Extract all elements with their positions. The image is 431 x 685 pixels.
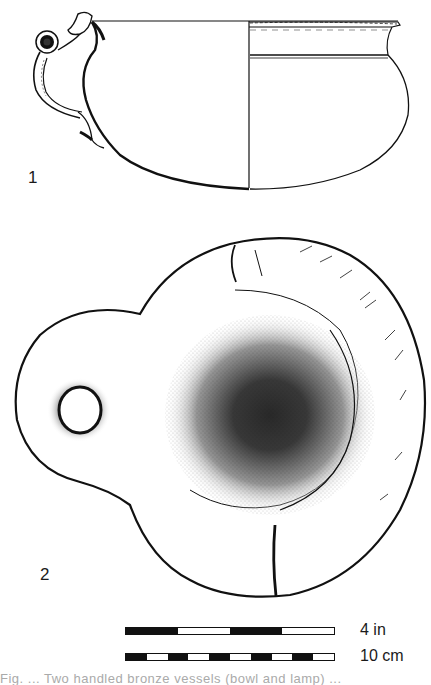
scale-segment: [188, 654, 209, 660]
figure-2-lamp-drawing: [0, 0, 431, 600]
scale-segment: [168, 654, 189, 660]
scale-segment: [126, 628, 178, 634]
scale-label-imperial: 4 in: [360, 621, 386, 639]
scale-segment: [251, 654, 272, 660]
scale-bar-metric: [125, 653, 335, 661]
scale-segment: [147, 654, 168, 660]
figure-caption: Fig. ... Two handled bronze vessels (bow…: [0, 671, 431, 685]
scale-segment: [272, 654, 293, 660]
scale-segment: [292, 654, 313, 660]
figure-2-label: 2: [40, 565, 49, 585]
scale-segment: [178, 628, 230, 634]
scale-segment: [230, 628, 282, 634]
scale-bar-imperial: [125, 627, 335, 635]
scale-segment: [230, 654, 251, 660]
scale-segment: [282, 628, 334, 634]
lamp-handle-hole: [59, 387, 101, 433]
scale-segment: [313, 654, 334, 660]
scale-label-metric: 10 cm: [360, 647, 404, 665]
scale-segment: [126, 654, 147, 660]
scale-segment: [209, 654, 230, 660]
